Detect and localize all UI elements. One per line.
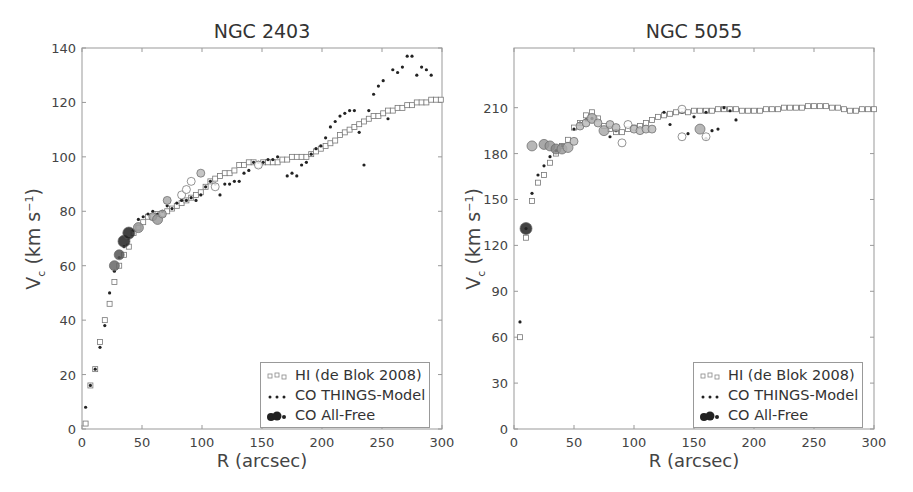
series-circle <box>520 105 710 234</box>
x-tick-label: 250 <box>802 435 827 450</box>
x-tick-label: 0 <box>510 435 518 450</box>
filled-circles-icon <box>698 405 724 425</box>
y-tick-label: 30 <box>491 376 508 391</box>
legend-item-co-things: CO THINGS-Model <box>698 385 858 405</box>
y-tick-label: 60 <box>491 330 508 345</box>
x-tick-label: 300 <box>862 435 887 450</box>
open-squares-icon <box>698 365 724 385</box>
y-tick-label: 180 <box>483 147 508 162</box>
y-tick-label: 0 <box>500 422 508 437</box>
legend-item-hi: HI (de Blok 2008) <box>698 365 858 385</box>
x-tick-label: 200 <box>742 435 767 450</box>
x-tick-label: 50 <box>566 435 583 450</box>
dots-icon <box>698 385 724 405</box>
y-tick-label: 90 <box>491 284 508 299</box>
y-tick-label: 150 <box>483 192 508 207</box>
y-tick-label: 210 <box>483 101 508 116</box>
legend-item-co-allfree: CO All-Free <box>698 405 858 425</box>
x-tick-label: 150 <box>682 435 707 450</box>
x-tick-label: 100 <box>622 435 647 450</box>
chart-panel-ngc5055: NGC 5055 Vc (km s−1) R (arcsec) 05010015… <box>0 0 913 492</box>
y-tick-label: 120 <box>483 238 508 253</box>
chart-legend: HI (de Blok 2008) CO THINGS-Model CO All… <box>693 362 863 428</box>
